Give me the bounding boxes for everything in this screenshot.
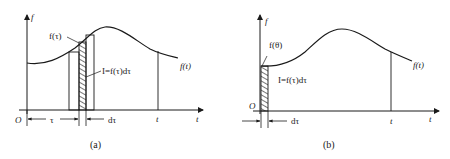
curve-f-t (261, 29, 412, 66)
area-leader (86, 71, 101, 77)
rect-right (86, 35, 94, 110)
caption-b: (b) (323, 139, 335, 151)
area-label: I=f(τ)dτ (278, 75, 307, 85)
dtau-label: dτ (108, 115, 117, 125)
y-axis-label: f (31, 12, 35, 22)
area-label: I=f(τ)dτ (102, 66, 131, 76)
point-label: f(θ) (269, 40, 282, 50)
point-leader (67, 37, 79, 43)
y-axis-label: f (265, 16, 269, 26)
tau-label: τ (50, 115, 54, 125)
t-marker-label: t (390, 116, 393, 126)
panel-b: f t O f(t) f(θ) I=f(τ)dτ dτ t (b) (242, 15, 439, 151)
dtau-label: dτ (291, 116, 300, 126)
hatched-strip (79, 42, 86, 110)
x-axis-label: t (196, 114, 199, 124)
curve-label: f(t) (180, 61, 191, 71)
point-label: f(τ) (49, 31, 62, 41)
x-axis-label: t (429, 114, 432, 124)
diagram-canvas: f t O f(t) f(τ) I=f(τ)dτ τ dτ t (a) f t … (0, 0, 450, 159)
hatched-strip (261, 66, 268, 111)
origin-label: O (249, 101, 256, 111)
origin-label: O (15, 115, 22, 125)
caption-a: (a) (90, 139, 101, 151)
curve-label: f(t) (413, 60, 424, 70)
point-leader (262, 56, 267, 66)
panel-a: f t O f(t) f(τ) I=f(τ)dτ τ dτ t (a) (15, 12, 203, 151)
rect-left (69, 52, 79, 110)
t-marker-label: t (156, 114, 159, 124)
